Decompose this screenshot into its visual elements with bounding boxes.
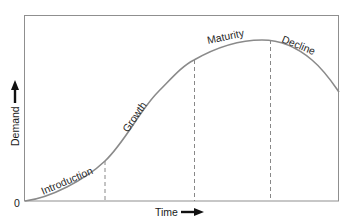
product-life-cycle-diagram: Introduction Growth Maturity Decline 0 D… bbox=[0, 0, 351, 222]
stage-label-growth: Growth bbox=[120, 99, 149, 134]
stage-label-introduction: Introduction bbox=[39, 164, 94, 197]
x-axis-arrow-icon bbox=[181, 208, 204, 216]
x-axis-label: Time bbox=[155, 206, 178, 218]
stage-label-decline: Decline bbox=[280, 33, 317, 57]
y-axis-arrow-icon bbox=[11, 80, 19, 103]
origin-label: 0 bbox=[14, 197, 20, 209]
y-axis-label: Demand bbox=[9, 106, 21, 146]
